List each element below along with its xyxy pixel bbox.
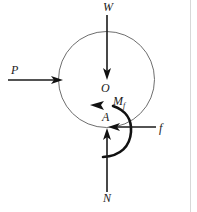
- normal-force-label: N: [102, 191, 112, 205]
- moment-subscript-label: f: [123, 101, 127, 110]
- force-applied: P: [8, 63, 63, 84]
- moment-arrow-head: [90, 101, 104, 110]
- diagram-canvas: W P O A M f f N: [0, 0, 197, 212]
- applied-force-label: P: [10, 63, 19, 77]
- friction-force-label: f: [159, 121, 164, 135]
- center-point-label: O: [101, 81, 110, 95]
- contact-point-label: A: [101, 110, 110, 124]
- force-normal: N: [102, 128, 112, 205]
- moment-arrow: M f: [90, 94, 131, 157]
- force-friction: f: [108, 121, 164, 135]
- force-weight: W: [103, 0, 114, 80]
- free-body-diagram: W P O A M f f N: [0, 0, 197, 212]
- weight-label: W: [103, 0, 114, 14]
